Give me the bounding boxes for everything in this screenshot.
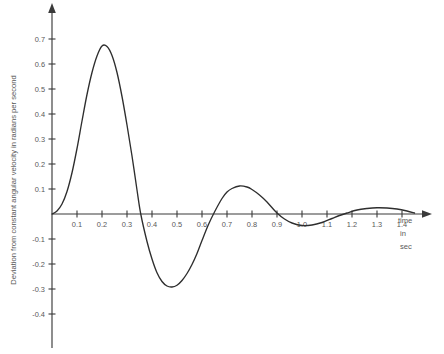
y-axis-arrowhead [48,3,56,13]
x-tick-label: 0.9 [272,220,282,229]
y-axis-title: Deviation from constant angular velocity… [9,75,18,284]
x-tick-label: 1.3 [372,220,382,229]
y-tick-label: 0.5 [35,85,45,94]
x-axis-title-line1: time [398,216,412,225]
x-tick-label: 0.1 [72,220,82,229]
chart-container: 0.70.60.50.40.30.20.1-0.1-0.2-0.3-0.4 0.… [0,0,444,354]
x-tick-label: 0.8 [247,220,257,229]
y-tick-label: 0.4 [35,110,45,119]
x-axis-ticks: 0.10.20.30.40.50.60.70.80.91.01.11.21.31… [72,211,407,230]
y-tick-label: 0.6 [35,60,45,69]
x-axis-title-line2: in [400,229,406,238]
x-tick-label: 0.2 [97,220,107,229]
x-tick-label: 0.7 [222,220,232,229]
x-tick-label: 0.6 [197,220,207,229]
x-tick-label: 0.4 [147,220,157,229]
data-series-curve [52,45,415,287]
y-tick-label: -0.3 [32,285,45,294]
x-tick-label: 0.3 [122,220,132,229]
y-tick-label: 0.2 [35,160,45,169]
x-axis-title-line3: sec [400,242,412,251]
y-tick-label: 0.7 [35,35,45,44]
y-tick-label: -0.2 [32,260,45,269]
y-tick-label: -0.4 [32,310,45,319]
x-tick-label: 0.5 [172,220,182,229]
deviation-vs-time-line-chart: 0.70.60.50.40.30.20.1-0.1-0.2-0.3-0.4 0.… [0,0,444,354]
x-tick-label: 1.2 [347,220,357,229]
y-tick-label: 0.3 [35,135,45,144]
axes-group [48,3,432,348]
y-tick-label: -0.1 [32,235,45,244]
y-tick-label: 0.1 [35,185,45,194]
x-axis-arrowhead [422,210,432,218]
